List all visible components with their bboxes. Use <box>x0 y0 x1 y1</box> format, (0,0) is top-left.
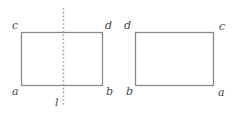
right-rectangle <box>136 33 214 86</box>
left-rect-label-bottom-left: a <box>12 86 19 97</box>
right-rect-label-bottom-left: b <box>126 86 133 97</box>
left-rect-label-top-right: d <box>105 20 112 31</box>
right-rect-label-top-right: c <box>219 21 225 32</box>
figure-canvas <box>0 0 241 118</box>
left-rect-label-top-left: c <box>12 20 18 31</box>
left-rect-label-bottom-right: b <box>106 86 113 97</box>
left-rectangle <box>22 33 103 86</box>
right-rect-label-top-left: d <box>124 20 131 31</box>
reflection-figure: c d a b l d c b a <box>0 0 241 118</box>
right-rect-label-bottom-right: a <box>218 87 225 98</box>
mirror-line-label: l <box>55 97 59 108</box>
